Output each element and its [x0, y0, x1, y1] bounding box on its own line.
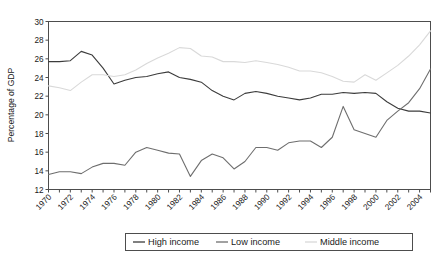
series-lines [49, 31, 431, 177]
legend-label-middle-income: Middle income [320, 237, 379, 247]
x-tick-label: 1974 [78, 192, 98, 212]
x-tick-label: 1994 [296, 192, 316, 212]
x-tick-label: 1984 [187, 192, 207, 212]
x-tick-label: 1986 [209, 192, 229, 212]
y-tick-label: 12 [34, 186, 44, 195]
legend-label-low-income: Low income [231, 237, 280, 247]
plot-frame [49, 22, 431, 190]
x-tick-label: 1988 [231, 192, 251, 212]
x-axis-ticks: 1970197219741976197819801982198419861988… [34, 190, 430, 212]
chart-legend: High incomeLow incomeMiddle income [126, 234, 413, 251]
x-tick-label: 1976 [100, 192, 120, 212]
x-tick-label: 1978 [121, 192, 141, 212]
y-tick-label: 14 [34, 167, 44, 176]
y-tick-label: 22 [34, 92, 44, 101]
y-axis-title: Percentage of GDP [6, 67, 16, 142]
x-tick-label: 1992 [274, 192, 294, 212]
x-tick-label: 1990 [252, 192, 272, 212]
x-tick-label: 1998 [340, 192, 360, 212]
x-tick-label: 1982 [165, 192, 185, 212]
x-tick-label: 1972 [56, 192, 76, 212]
y-tick-label: 26 [34, 55, 44, 64]
y-tick-label: 20 [34, 111, 44, 120]
y-tick-label: 18 [34, 130, 44, 139]
y-tick-label: 24 [34, 74, 44, 83]
series-line-middle-income [49, 31, 431, 91]
y-tick-label: 30 [34, 18, 44, 27]
legend-label-high-income: High income [148, 237, 199, 247]
x-tick-label: 1970 [34, 192, 54, 212]
x-tick-label: 1980 [143, 192, 163, 212]
line-chart: Percentage of GDP 12141618202224262830 1… [0, 0, 446, 263]
series-line-low-income [49, 69, 431, 176]
y-tick-label: 16 [34, 148, 44, 157]
series-line-high-income [49, 51, 431, 113]
y-axis-title-label: Percentage of GDP [6, 67, 16, 142]
y-tick-label: 28 [34, 36, 44, 45]
x-tick-label: 2004 [405, 192, 425, 212]
y-axis-ticks: 12141618202224262830 [34, 18, 48, 195]
x-tick-label: 1996 [318, 192, 338, 212]
x-tick-label: 2002 [383, 192, 403, 212]
chart-figure: Percentage of GDP 12141618202224262830 1… [0, 0, 446, 263]
x-tick-label: 2000 [362, 192, 382, 212]
